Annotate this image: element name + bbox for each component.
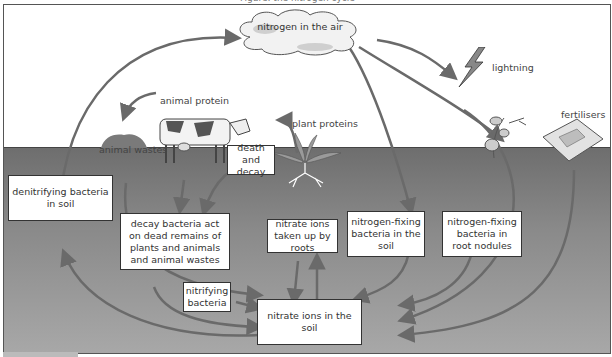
nitrate-uptake-box: nitrate ions taken up by roots <box>267 219 338 253</box>
nitrifying-bacteria-box: nitrifying bacteria <box>183 282 231 312</box>
grass-plant-icon <box>269 133 349 189</box>
decay-bacteria-box: decay bacteria act on dead remains of pl… <box>120 213 230 270</box>
nitrogen-fixing-nodules-box: nitrogen-fixing bacteria in root nodules <box>442 211 522 257</box>
nitrogen-fixing-soil-box: nitrogen-fixing bacteria in the soil <box>347 211 425 257</box>
nitrate-soil-box: nitrate ions in the soil <box>257 299 362 345</box>
denitrifying-bacteria-box: denitrifying bacteria in soil <box>8 175 113 221</box>
lightning-label: lightning <box>492 62 534 73</box>
nitrogen-air-label: nitrogen in the air <box>250 21 350 32</box>
death-decay-box: death and decay <box>227 145 275 175</box>
animal-wastes-label: animal wastes <box>99 144 167 155</box>
caption-text: Figure: the nitrogen cycle <box>240 0 355 3</box>
fertiliser-bag-icon <box>539 117 607 165</box>
animal-protein-label: animal protein <box>160 95 229 106</box>
legume-plant-icon <box>474 113 534 163</box>
plant-proteins-label: plant proteins <box>292 118 358 129</box>
lightning-bolt-icon <box>457 47 487 87</box>
nitrogen-cycle-diagram: nitrogen in the air lightning fertiliser… <box>3 4 611 354</box>
fertilisers-label: fertilisers <box>561 109 605 120</box>
bottom-tab-decoration <box>3 352 78 357</box>
cloud-icon <box>230 7 370 57</box>
